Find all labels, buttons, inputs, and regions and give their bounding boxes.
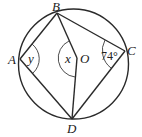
segment-da [20,59,72,119]
angle-label-y: y [26,51,34,66]
angle-label-x: x [64,51,71,66]
label-a: A [7,52,16,67]
label-b: B [52,0,60,14]
label-d: D [66,121,77,136]
segment-od [72,58,77,119]
label-o: O [80,51,90,66]
angle-label-74: 74° [101,49,118,63]
segment-bc [57,13,125,51]
circle-diagram: B A C D O y x 74° [0,0,142,137]
label-c: C [127,43,136,58]
